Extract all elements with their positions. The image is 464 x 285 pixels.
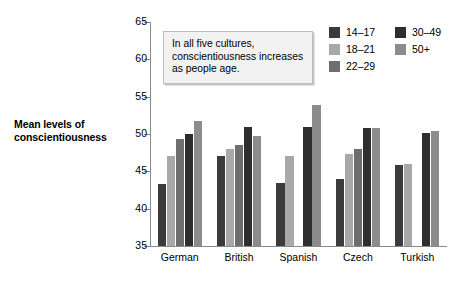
bar [217, 156, 225, 246]
bar [431, 131, 439, 246]
legend-item-label: 50+ [412, 43, 430, 56]
bar [244, 127, 252, 246]
bar [336, 179, 344, 246]
y-axis-tick-label: 50 [135, 127, 147, 140]
bar [422, 133, 430, 246]
x-axis-category-label: British [209, 251, 268, 264]
bar [253, 136, 261, 247]
legend-item-label: 22–29 [346, 60, 375, 73]
bar [185, 134, 193, 246]
y-axis-tick-label: 35 [135, 239, 147, 252]
bar [404, 164, 412, 246]
bar [303, 127, 311, 246]
x-axis-line [150, 246, 447, 247]
legend-swatch-icon [395, 44, 406, 55]
legend-item-label: 14–17 [346, 26, 375, 39]
bar [235, 145, 243, 246]
bar [285, 156, 293, 246]
legend-swatch-icon [329, 44, 340, 55]
bar-chart-figure: Mean levels of conscientiousness 6560555… [0, 0, 464, 285]
x-axis-category-label: Spanish [269, 251, 328, 264]
bar [354, 149, 362, 246]
annotation-callout: In all five cultures, conscientiousness … [163, 31, 313, 84]
bar [194, 121, 202, 246]
legend-item: 18–21 [329, 41, 375, 57]
legend-swatch-icon [329, 61, 340, 72]
x-axis-category-label: Czech [328, 251, 387, 264]
y-axis-title: Mean levels of conscientiousness [14, 118, 132, 143]
bar [226, 149, 234, 246]
legend-item-label: 30–49 [412, 26, 441, 39]
legend-item: 22–29 [329, 58, 375, 74]
legend-swatch-icon [395, 27, 406, 38]
y-axis-tick-label: 60 [135, 52, 147, 65]
bar [158, 184, 166, 246]
bar [395, 165, 403, 246]
bar [276, 183, 284, 246]
bar [176, 139, 184, 246]
legend-swatch-icon [329, 27, 340, 38]
bar [372, 128, 380, 246]
y-axis-tick-label: 45 [135, 164, 147, 177]
legend-item: 30–49 [395, 24, 441, 40]
y-axis-tick-label: 55 [135, 90, 147, 103]
bar [363, 128, 371, 246]
bar [345, 154, 353, 246]
legend-item: 14–17 [329, 24, 375, 40]
legend-item: 50+ [395, 41, 441, 57]
legend-item-label: 18–21 [346, 43, 375, 56]
bar [167, 156, 175, 246]
bar [312, 105, 320, 246]
x-axis-category-label: German [150, 251, 209, 264]
legend-column-left: 14–1718–2122–29 [329, 24, 375, 75]
y-axis-tick-label: 65 [135, 15, 147, 28]
legend-column-right: 30–4950+ [395, 24, 441, 58]
y-axis-tick-label: 40 [135, 202, 147, 215]
x-axis-category-label: Turkish [388, 251, 447, 264]
